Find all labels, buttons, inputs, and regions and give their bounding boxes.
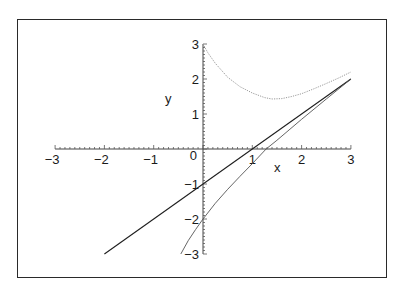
y-tick-label: −1 xyxy=(184,177,199,192)
x-tick-label: −2 xyxy=(94,152,109,167)
y-tick-label: 1 xyxy=(192,107,199,122)
x-tick-label: 1 xyxy=(249,152,256,167)
plot-area: −3−2−10123−3−2−1123 x y xyxy=(0,0,404,301)
x-tick-label: −3 xyxy=(45,152,60,167)
y-tick-label: −2 xyxy=(184,212,199,227)
series-upper-curve xyxy=(203,44,351,99)
y-tick-label: 3 xyxy=(192,37,199,52)
axes: −3−2−10123−3−2−1123 xyxy=(45,37,355,262)
x-tick-label: 3 xyxy=(347,152,354,167)
x-tick-label: 0 xyxy=(190,148,197,163)
y-tick-label: 2 xyxy=(192,72,199,87)
series-line xyxy=(104,79,351,254)
x-tick-label: −1 xyxy=(143,152,158,167)
y-tick-label: −3 xyxy=(184,247,199,262)
x-tick-label: 2 xyxy=(298,152,305,167)
series-lower-branch xyxy=(181,79,351,254)
x-axis-label: x xyxy=(274,160,281,175)
y-axis-label: y xyxy=(165,91,172,106)
